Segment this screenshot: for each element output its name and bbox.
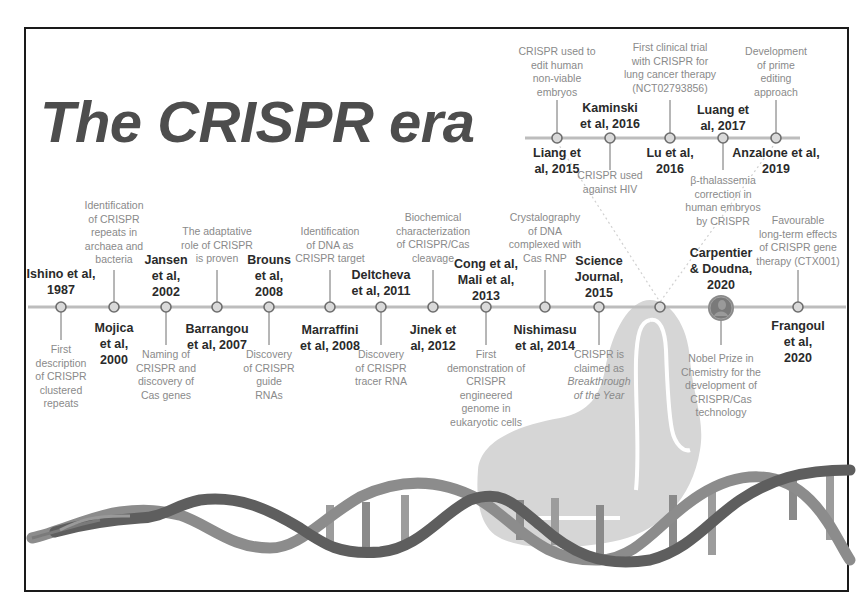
event-desc-carpentier-doudna-2020: Nobel Prize inChemistry for thedevelopme…: [681, 352, 761, 420]
event-name-mojica-2000: Mojicaet al,2000: [95, 320, 134, 368]
event-desc-cong-mali-2013: Firstdemonstration ofCRISPRengineeredgen…: [447, 348, 525, 429]
event-desc-luang-2017: β-thalassemiacorrection inhuman embryosb…: [685, 174, 760, 228]
event-desc-deltcheva-2011: Discoveryof CRISPRtracer RNA: [355, 348, 407, 389]
event-desc-mojica-2000: Identificationof CRISPRrepeats inarchaea…: [85, 199, 144, 267]
event-desc-science-journal-2015: CRISPR isclaimed asBreakthroughof the Ye…: [567, 348, 630, 402]
event-desc-marraffini-2008: Identificationof DNA asCRISPR target: [295, 225, 364, 266]
event-name-frangoul-2020: Frangoulet al,2020: [771, 318, 824, 366]
event-desc-kaminski-2016: CRISPR usedagainst HIV: [577, 169, 642, 196]
dna-helix-icon: [32, 470, 850, 562]
event-desc-barrangou-2007: The adaptativerole of CRISPRis proven: [181, 225, 253, 266]
event-desc-nishimasu-2014: Crystalographyof DNAcomplexed withCas RN…: [509, 211, 581, 265]
event-name-deltcheva-2011: Deltchevaet al, 2011: [351, 267, 410, 299]
nobel-medal-icon: [708, 295, 734, 321]
event-desc-frangoul-2020: Favourablelong-term effectsof CRISPR gen…: [756, 214, 839, 268]
timeline-artwork: [0, 0, 864, 608]
event-name-marraffini-2008: Marraffiniet al, 2008: [300, 322, 360, 354]
event-name-anzalone-2019: Anzalone et al,2019: [732, 145, 820, 177]
event-name-ishino-1987: Ishino et al,1987: [27, 266, 96, 298]
event-desc-jansen-2002: Naming ofCRISPR anddiscovery ofCas genes: [136, 348, 196, 402]
event-desc-anzalone-2019: Developmentof primeeditingapproach: [745, 45, 807, 99]
event-name-kaminski-2016: Kaminskiet al, 2016: [580, 100, 640, 132]
event-desc-lu-2016: First clinical trialwith CRISPR forlung …: [624, 41, 716, 95]
event-name-luang-2017: Luang etal, 2017: [697, 102, 749, 134]
event-desc-ishino-1987: Firstdescriptionof CRISPRclusteredrepeat…: [35, 343, 86, 411]
event-name-brouns-2008: Brounset al,2008: [247, 252, 291, 300]
event-desc-liang-2015: CRISPR used toedit humannon-viableembryo…: [518, 45, 595, 99]
event-name-science-journal-2015: ScienceJournal,2015: [575, 253, 624, 301]
event-name-lu-2016: Lu et al,2016: [646, 145, 693, 177]
event-name-carpentier-doudna-2020: Carpentier& Doudna,2020: [690, 245, 753, 293]
event-name-barrangou-2007: Barrangouet al, 2007: [185, 321, 248, 353]
event-name-liang-2015: Liang etal, 2015: [533, 145, 581, 177]
event-desc-brouns-2008: Discoveryof CRISPRguideRNAs: [243, 348, 294, 402]
